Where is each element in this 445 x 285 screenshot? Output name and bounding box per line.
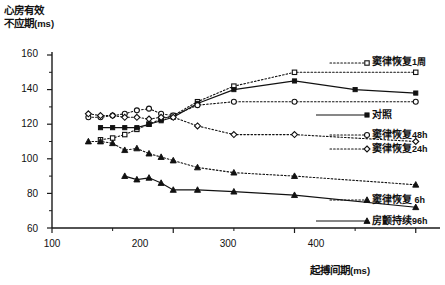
legend-text: 房颤持续 [372, 215, 412, 226]
data-point [147, 106, 152, 111]
data-point [122, 173, 128, 179]
data-point [232, 88, 236, 92]
legend-marker-sinus-6h [364, 197, 370, 203]
legend-text: 对照 [372, 109, 392, 120]
legend-label-sinus-1week: 窦律恢复1周 [372, 57, 426, 67]
data-point [195, 123, 201, 129]
x-axis-unit: (ms) [350, 265, 370, 276]
data-point [195, 103, 200, 108]
data-point [111, 126, 115, 130]
data-point [413, 99, 418, 104]
data-point [98, 126, 102, 130]
data-point [414, 91, 418, 95]
data-point [292, 99, 297, 104]
y-tick-label-80: 80 [10, 188, 38, 199]
data-point [85, 138, 91, 144]
x-tick-label-300: 300 [213, 238, 243, 249]
data-point [123, 132, 127, 136]
data-point [134, 145, 140, 151]
x-tick-label-400: 400 [301, 238, 331, 249]
legend-suffix: 96h [412, 216, 428, 226]
legend-marker-sinus-24h [364, 146, 370, 152]
y-tick-label-100: 100 [10, 153, 38, 164]
legend-marker-sinus-1week [365, 61, 369, 65]
y-axis-label-line2: 不应期 [4, 17, 34, 29]
legend-label-af-96h: 房颤持续96h [372, 216, 428, 226]
x-tick-label-200: 200 [125, 238, 155, 249]
legend-text: 窦律恢复 [372, 143, 412, 154]
legend-label-sinus-48h: 窦律恢复48h [372, 130, 428, 140]
series-0 [98, 70, 418, 142]
y-axis-unit: (ms) [34, 18, 54, 29]
y-tick-label-140: 140 [10, 83, 38, 94]
legend-label-sinus-24h: 窦律恢复24h [372, 144, 428, 154]
legend-text: 窦律恢复 [372, 129, 412, 140]
legend-text: 窦律恢复 [372, 56, 412, 67]
series-group [85, 70, 418, 210]
data-point [353, 88, 357, 92]
data-point [231, 132, 237, 138]
y-tick-label-160: 160 [10, 48, 38, 59]
data-point [146, 175, 152, 181]
chart-figure: 心房有效 不应期(ms) 起搏间期(ms) 160 140 120 100 80… [0, 0, 445, 285]
x-tick-label-100: 100 [37, 238, 67, 249]
legend-suffix: 48h [412, 130, 428, 140]
data-point [134, 114, 140, 120]
data-point [158, 154, 164, 160]
y-tick-label-120: 120 [10, 118, 38, 129]
legend-suffix: 1周 [412, 57, 426, 67]
data-point [292, 79, 296, 83]
legend-marker-control [365, 113, 369, 117]
legend-label-sinus-6h: 窦律恢复 6h [372, 195, 425, 205]
legend-text: 窦律恢复 [372, 194, 412, 205]
data-point [292, 132, 298, 138]
data-point [292, 70, 296, 74]
data-point [146, 116, 152, 122]
data-point [135, 126, 139, 130]
y-axis-label: 心房有效 不应期(ms) [4, 4, 54, 30]
data-point [123, 126, 127, 130]
legend-suffix: 24h [412, 144, 428, 154]
data-point [414, 70, 418, 74]
x-axis-label-text: 起搏间期 [310, 264, 350, 276]
legend-suffix: 6h [412, 195, 425, 205]
y-axis-label-line1: 心房有效 [4, 4, 44, 16]
x-axis-label: 起搏间期(ms) [310, 262, 370, 277]
legend-label-control: 对照 [372, 110, 392, 120]
legend-marker-sinus-48h [365, 133, 370, 138]
data-point [231, 99, 236, 104]
data-point [134, 108, 139, 113]
y-tick-label-60: 60 [10, 223, 38, 234]
